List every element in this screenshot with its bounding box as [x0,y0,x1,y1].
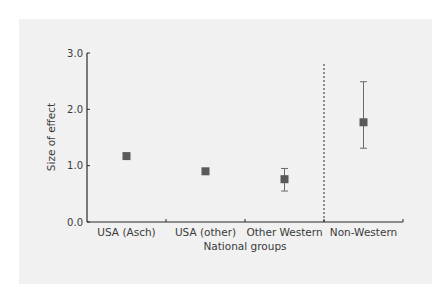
y-tick-label: 3.0 [67,48,83,59]
x-category-label: Other Western [246,226,322,238]
x-axis-title: National groups [203,240,286,252]
axes [87,53,403,222]
y-tick-label: 0.0 [67,217,83,228]
data-point-marker [123,152,131,160]
data-points [123,82,368,191]
x-category-label: USA (other) [175,226,236,238]
y-tick-label: 2.0 [67,104,83,115]
data-point-marker [360,118,368,126]
y-tick-label: 1.0 [67,160,83,171]
effect-size-chart: 0.01.02.03.0 USA (Asch)USA (other)Other … [0,0,446,294]
x-category-label: USA (Asch) [97,226,155,238]
data-point-marker [202,167,210,175]
x-category-label: Non-Western [330,226,397,238]
y-axis-title: Size of effect [45,103,57,171]
data-point-marker [281,175,289,183]
